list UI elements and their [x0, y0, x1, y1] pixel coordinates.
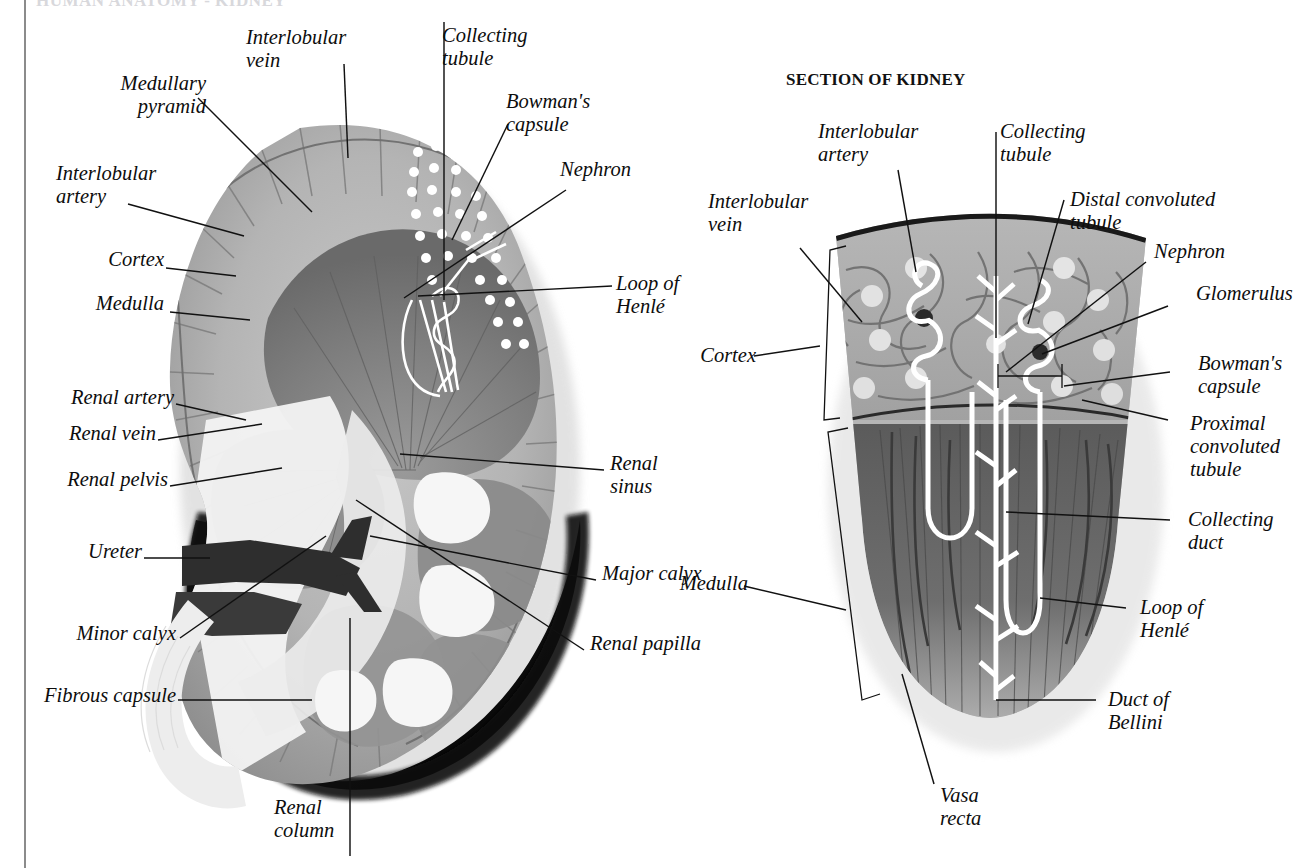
left-label-renal-pelvis: Renal pelvis — [14, 468, 168, 491]
right-kidney-wedge-illustration — [820, 190, 1170, 755]
anatomical-artwork — [0, 0, 1315, 868]
left-label-interlobular-artery: Interlobular artery — [56, 162, 156, 208]
left-label-interlobular-vein: Interlobular vein — [246, 26, 346, 72]
left-label-fibrous-capsule: Fibrous capsule — [10, 684, 176, 707]
left-label-bowmans-capsule: Bowman's capsule — [506, 90, 590, 136]
glomerulus-spheres — [853, 257, 1123, 405]
left-label-renal-papilla: Renal papilla — [590, 632, 701, 655]
left-label-ureter: Ureter — [20, 540, 142, 563]
right-label-collecting-tubule: Collecting tubule — [1000, 120, 1085, 166]
right-label-proximal-convoluted-tubule: Proximal convoluted tubule — [1190, 412, 1280, 481]
left-label-medulla: Medulla — [26, 292, 164, 315]
nephron-tubules-right — [909, 263, 1052, 700]
bowmans-capsule-bracket — [998, 364, 1062, 388]
right-label-distal-convoluted-tubule: Distal convoluted tubule — [1070, 188, 1215, 234]
right-label-nephron: Nephron — [1154, 240, 1225, 263]
vasa-recta-shape — [878, 432, 1111, 709]
right-label-interlobular-vein: Interlobular vein — [708, 190, 808, 236]
medullary-pyramid-shape — [264, 229, 540, 480]
right-label-glomerulus: Glomerulus — [1196, 282, 1293, 305]
left-label-loop-of-henle: Loop of Henlé — [616, 272, 679, 318]
cortex-bracket — [824, 246, 846, 420]
left-figure-leader-lines — [128, 22, 612, 856]
right-label-vasa-recta: Vasa recta — [940, 784, 981, 830]
medulla-bracket — [828, 428, 880, 700]
left-label-medullary-pyramid: Medullary pyramid — [58, 72, 206, 118]
right-label-collecting-duct: Collecting duct — [1188, 508, 1273, 554]
nephron-tubules-left — [403, 232, 506, 396]
right-label-cortex: Cortex — [640, 344, 756, 367]
right-figure-title: SECTION OF KIDNEY — [786, 70, 965, 90]
fibrous-capsule-shape — [187, 520, 580, 790]
right-label-duct-of-bellini: Duct of Bellini — [1108, 688, 1169, 734]
left-label-renal-artery: Renal artery — [20, 386, 174, 409]
right-label-loop-of-henle: Loop of Henlé — [1140, 596, 1203, 642]
left-label-minor-calyx: Minor calyx — [16, 622, 176, 645]
left-label-renal-sinus: Renal sinus — [610, 452, 658, 498]
renal-vein-shape — [170, 592, 302, 636]
left-label-renal-vein: Renal vein — [20, 422, 156, 445]
renal-sinus-cavity — [186, 396, 349, 780]
left-label-cortex: Cortex — [36, 248, 164, 271]
right-label-bowmans-capsule: Bowman's capsule — [1198, 352, 1282, 398]
right-label-interlobular-artery: Interlobular artery — [818, 120, 918, 166]
glomerulus-dots-left — [407, 141, 529, 349]
left-label-renal-column: Renal column — [274, 796, 334, 842]
kidney-anatomy-plate: HUMAN ANATOMY - KIDNEY — [0, 0, 1315, 868]
cut-off-plate-title: HUMAN ANATOMY - KIDNEY — [36, 0, 286, 11]
left-label-nephron: Nephron — [560, 158, 631, 181]
left-label-collecting-tubule: Collecting tubule — [442, 24, 527, 70]
renal-artery-shape — [182, 516, 382, 612]
right-label-medulla: Medulla — [620, 572, 748, 595]
left-kidney-illustration — [141, 100, 590, 810]
